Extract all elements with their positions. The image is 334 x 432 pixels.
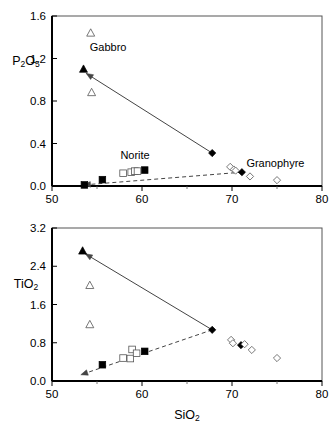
trend-line-dashed [84, 172, 242, 185]
y-tick-label: 2.4 [30, 260, 47, 272]
y-axis-title: TiO2 [14, 277, 39, 292]
x-tick-label: 60 [136, 193, 149, 205]
data-point-triangle-open [87, 29, 95, 36]
data-point-diamond-filled [238, 169, 245, 176]
x-tick-label: 50 [46, 193, 59, 205]
y-tick-label: 0.0 [30, 180, 46, 192]
data-point-square-filled [141, 167, 148, 174]
data-point-diamond-open [273, 354, 280, 361]
data-point-triangle-filled [80, 65, 88, 72]
y-tick-label: 0.4 [30, 138, 47, 150]
data-point-diamond-open [248, 346, 255, 353]
y-tick-label: 0.0 [30, 375, 46, 387]
x-tick-label: 80 [316, 193, 329, 205]
chart-svg-p2o5: 506070800.00.40.81.21.6GabbroNoriteGrano… [0, 0, 334, 216]
data-point-square-filled [99, 361, 106, 368]
data-point-square-filled [141, 348, 148, 355]
plot-annotation: Norite [120, 149, 149, 161]
data-point-triangle-open [86, 320, 94, 327]
data-point-square-open [133, 350, 140, 357]
plot-frame [52, 228, 322, 381]
data-point-square-open [120, 355, 127, 362]
data-point-square-filled [81, 182, 88, 189]
x-tick-label: 50 [46, 388, 59, 400]
x-tick-label: 70 [226, 388, 239, 400]
plot-annotation: Granophyre [246, 157, 304, 169]
trend-line-solid [86, 73, 212, 153]
y-tick-label: 0.8 [30, 95, 46, 107]
chart-panel-tio2: 506070800.00.81.62.43.2TiO2SiO2 [0, 216, 334, 432]
x-tick-label: 60 [136, 388, 149, 400]
data-point-diamond-filled [209, 326, 216, 333]
figure-root: 506070800.00.40.81.21.6GabbroNoriteGrano… [0, 0, 334, 432]
trend-arrowhead [86, 73, 93, 79]
data-point-triangle-filled [79, 247, 87, 254]
data-point-square-open [127, 355, 134, 362]
x-tick-label: 80 [316, 388, 329, 400]
plot-annotation: Gabbro [90, 41, 127, 53]
y-tick-label: 1.6 [30, 10, 46, 22]
y-tick-label: 1.6 [30, 299, 46, 311]
data-point-diamond-filled [209, 149, 216, 156]
chart-svg-tio2: 506070800.00.81.62.43.2TiO2SiO2 [0, 216, 334, 432]
x-tick-label: 70 [226, 193, 239, 205]
data-point-diamond-open [246, 173, 253, 180]
x-axis-title: SiO2 [174, 408, 200, 423]
y-tick-label: 3.2 [30, 222, 46, 234]
data-point-square-filled [99, 176, 106, 183]
y-tick-label: 0.8 [30, 337, 46, 349]
chart-panel-p2o5: 506070800.00.40.81.21.6GabbroNoriteGrano… [0, 0, 334, 216]
data-point-square-open [120, 170, 127, 177]
data-point-square-open [134, 168, 141, 175]
trend-line-solid [85, 254, 212, 330]
data-point-diamond-open [273, 177, 280, 184]
trend-arrowhead [85, 254, 92, 260]
data-point-triangle-open [86, 281, 94, 288]
trend-arrowhead [81, 370, 89, 375]
data-point-triangle-open [88, 88, 96, 95]
